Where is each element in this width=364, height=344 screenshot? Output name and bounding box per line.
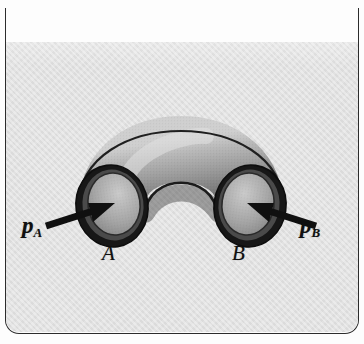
- pressure-label-b-subscript: B: [312, 225, 321, 240]
- pressure-label-a-subscript: A: [34, 225, 43, 240]
- figure-root: pA pB A B: [0, 0, 364, 344]
- pressure-label-b-symbol: p: [300, 213, 312, 238]
- pipe-elbow-drawing: [0, 0, 364, 344]
- pressure-label-b: pB: [300, 214, 320, 237]
- pressure-label-a: pA: [22, 214, 42, 237]
- point-label-a: A: [102, 243, 115, 264]
- point-label-b: B: [232, 243, 245, 264]
- pressure-label-a-symbol: p: [22, 213, 34, 238]
- bend-inner-shadow: [146, 193, 218, 214]
- drawing-stage: pA pB A B: [0, 0, 364, 344]
